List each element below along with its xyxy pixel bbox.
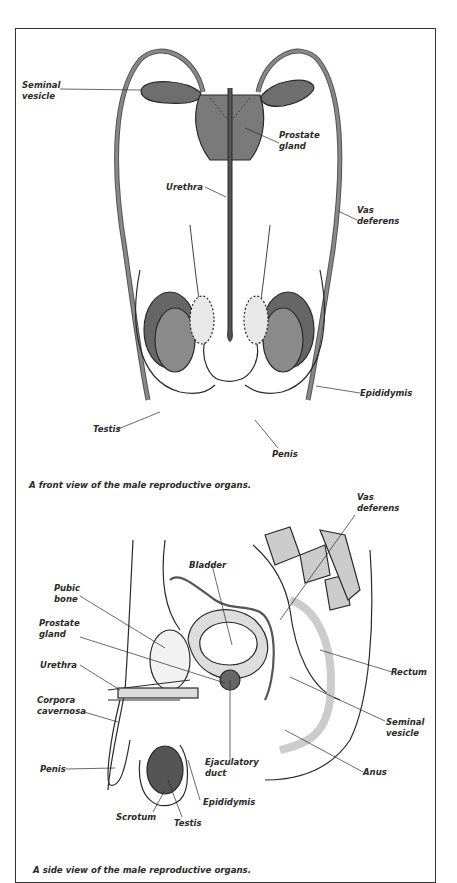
label-urethra-side: Urethra [40,660,77,671]
caption-front-view: A front view of the male reproductive or… [29,480,251,490]
label-epididymis-front: Epididymis [360,388,412,399]
label-testis-side: Testis [174,818,202,829]
label-vas-deferens-front: Vas deferens [357,205,399,227]
label-anus-side: Anus [363,767,387,778]
label-rectum-side: Rectum [391,667,427,678]
label-pubic-bone-side: Pubic bone [54,583,80,605]
label-seminal-vesicle-front: Seminal vesicle [22,80,60,102]
label-vas-deferens-side: Vas deferens [357,492,399,514]
label-epididymis-side: Epididymis [203,797,255,808]
label-bladder-side: Bladder [189,560,226,571]
label-penis-front: Penis [272,449,298,460]
label-prostate-gland-front: Prostate gland [279,130,320,152]
label-testis-front: Testis [93,424,121,435]
label-ejaculatory-duct-side: Ejaculatory duct [205,757,259,779]
label-prostate-gland-side: Prostate gland [39,618,80,640]
label-seminal-vesicle-side: Seminal vesicle [386,717,424,739]
caption-side-view: A side view of the male reproductive org… [33,865,251,875]
label-penis-side: Penis [40,764,66,775]
label-corpora-cavernosa-side: Corpora cavernosa [37,695,86,717]
label-scrotum-side: Scrotum [116,812,156,823]
label-urethra-front: Urethra [166,182,203,193]
